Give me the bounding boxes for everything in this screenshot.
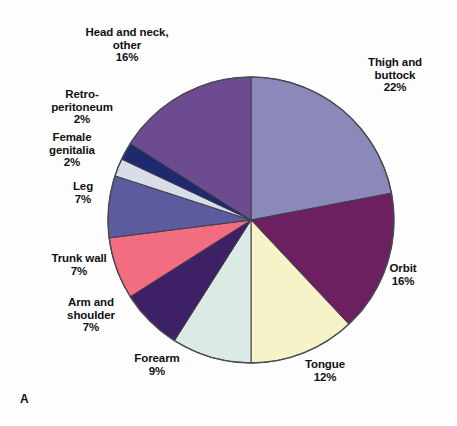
figure-letter-label: A bbox=[20, 392, 29, 406]
slice-label-forearm: Forearm 9% bbox=[112, 352, 202, 377]
slice-label-leg: Leg 7% bbox=[48, 180, 118, 205]
pie-slices-group: Thigh and buttock 22%Orbit 16%Tongue 12%… bbox=[108, 77, 394, 363]
slice-label-arm-and-shoulder: Arm and shoulder 7% bbox=[42, 296, 140, 334]
slice-label-orbit: Orbit 16% bbox=[368, 262, 438, 287]
slice-label-tongue: Tongue 12% bbox=[282, 358, 368, 383]
slice-label-trunk-wall: Trunk wall 7% bbox=[24, 252, 134, 277]
slice-label-female-genitalia: Female genitalia 2% bbox=[16, 131, 128, 169]
pie-chart-figure: Thigh and buttock 22%Orbit 16%Tongue 12%… bbox=[0, 0, 457, 426]
slice-label-thigh-and-buttock: Thigh and buttock 22% bbox=[344, 56, 446, 94]
slice-label-retroperitoneum: Retro- peritoneum 2% bbox=[24, 88, 140, 126]
slice-label-head-and-neck-other: Head and neck, other 16% bbox=[62, 26, 192, 64]
